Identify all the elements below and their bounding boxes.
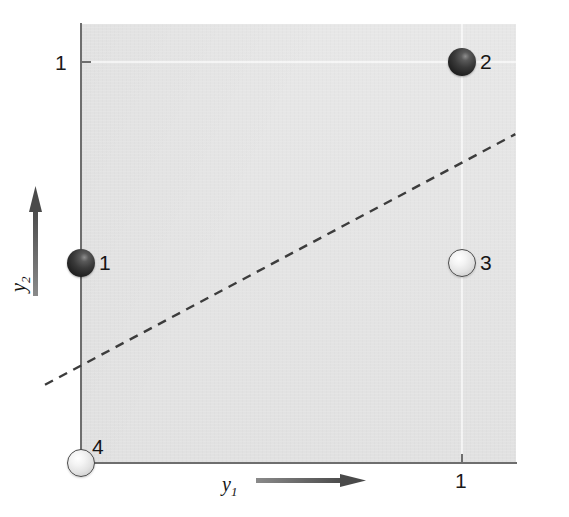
- figure-canvas: 1 1 1234 y1 y2: [0, 0, 569, 517]
- x-axis-title-base: y: [222, 473, 231, 495]
- data-point-2[interactable]: [448, 48, 476, 76]
- x-axis-direction-arrow-icon: [256, 472, 374, 490]
- data-point-1[interactable]: [67, 249, 95, 277]
- x-axis-title-subscript: 1: [231, 484, 238, 499]
- data-point-label-1: 1: [99, 252, 111, 273]
- data-point-label-4: 4: [92, 436, 104, 457]
- x-axis-title: y1: [222, 474, 237, 498]
- data-point-label-3: 3: [480, 252, 492, 273]
- data-point-4[interactable]: [67, 449, 95, 477]
- data-point-label-2: 2: [480, 51, 492, 72]
- y-axis-direction-arrow-icon: [27, 186, 45, 298]
- y-axis-title-base: y: [7, 283, 29, 292]
- data-point-3[interactable]: [448, 249, 476, 277]
